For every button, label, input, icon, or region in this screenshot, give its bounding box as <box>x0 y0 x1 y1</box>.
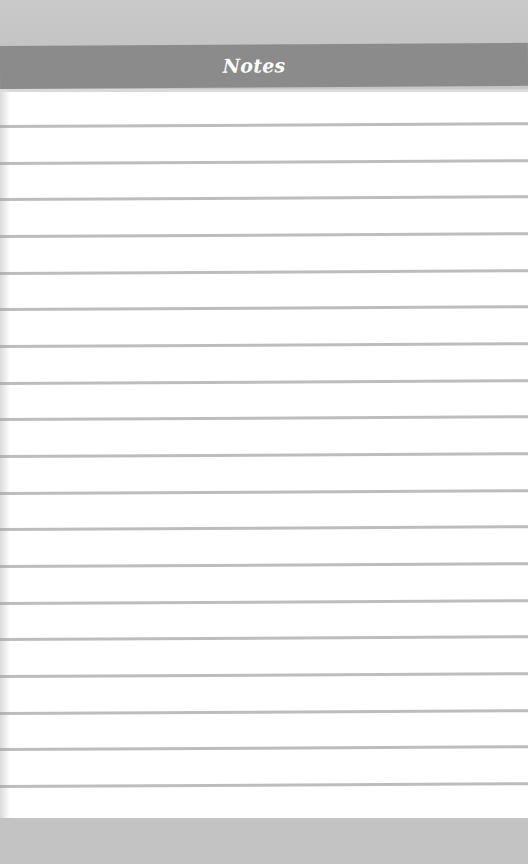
rule-line <box>0 196 528 202</box>
rule-line <box>0 709 528 715</box>
rule-line <box>0 489 528 495</box>
rule-line <box>0 416 528 422</box>
rule-line <box>0 342 528 348</box>
top-background <box>0 0 528 48</box>
rule-line <box>0 452 528 458</box>
rule-line <box>0 232 528 238</box>
rule-line <box>0 599 528 605</box>
rule-line <box>0 636 528 642</box>
bottom-background <box>0 818 528 864</box>
rule-line <box>0 526 528 532</box>
rule-line <box>0 269 528 275</box>
rule-line <box>0 379 528 385</box>
rule-line <box>0 306 528 312</box>
rule-line <box>0 672 528 678</box>
rule-line <box>0 562 528 568</box>
rule-line <box>0 746 528 752</box>
rule-line <box>0 122 528 128</box>
notes-header: Notes <box>0 43 528 89</box>
rule-line <box>0 782 528 788</box>
notes-paper[interactable] <box>0 92 528 818</box>
rule-line <box>0 159 528 165</box>
page-title: Notes <box>223 54 286 76</box>
